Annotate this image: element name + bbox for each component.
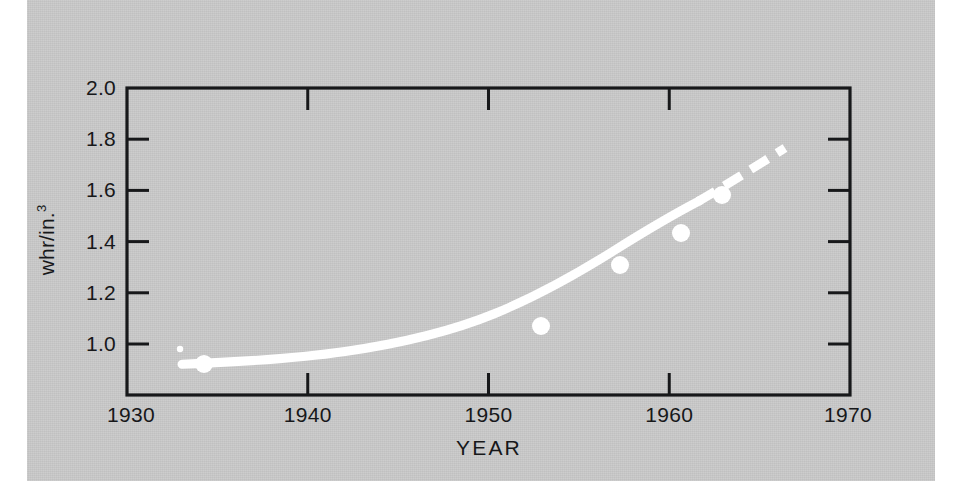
plot-frame <box>127 88 850 395</box>
y-tick-label-1-2: 1.2 <box>58 281 116 305</box>
data-point-markers <box>177 186 731 373</box>
chart-canvas <box>0 0 954 504</box>
data-point <box>177 346 183 352</box>
x-axis-tick-marks-top <box>308 88 670 110</box>
y-axis-title: whr/in.3 <box>34 205 59 276</box>
x-tick-label-1970: 1970 <box>824 403 872 427</box>
y-tick-label-1-4: 1.4 <box>58 230 116 254</box>
x-tick-label-1940: 1940 <box>284 403 332 427</box>
x-tick-label-1930: 1930 <box>107 403 155 427</box>
y-axis-title-text: whr/in. <box>35 212 58 275</box>
x-axis-title: YEAR <box>456 436 522 460</box>
line-chart-figure: 2.0 1.8 1.6 1.4 1.2 1.0 1930 1940 1950 1… <box>0 0 954 504</box>
y-axis-tick-marks-right <box>828 139 850 344</box>
data-point <box>195 355 213 373</box>
data-point <box>672 224 690 242</box>
data-point <box>713 186 731 204</box>
y-tick-label-2-0: 2.0 <box>58 76 116 100</box>
x-tick-label-1950: 1950 <box>465 403 513 427</box>
y-tick-label-1-8: 1.8 <box>58 127 116 151</box>
trend-curve-dashed <box>698 148 785 202</box>
data-point <box>611 256 629 274</box>
y-tick-label-1-6: 1.6 <box>58 178 116 202</box>
trend-curve-solid <box>182 201 700 365</box>
y-axis-tick-marks-left <box>127 139 149 344</box>
x-tick-label-1960: 1960 <box>645 403 693 427</box>
y-axis-title-exponent: 3 <box>34 205 49 212</box>
data-point <box>532 317 550 335</box>
figure-page: 2.0 1.8 1.6 1.4 1.2 1.0 1930 1940 1950 1… <box>0 0 954 504</box>
x-axis-tick-marks-bottom <box>308 373 670 395</box>
y-tick-label-1-0: 1.0 <box>58 332 116 356</box>
